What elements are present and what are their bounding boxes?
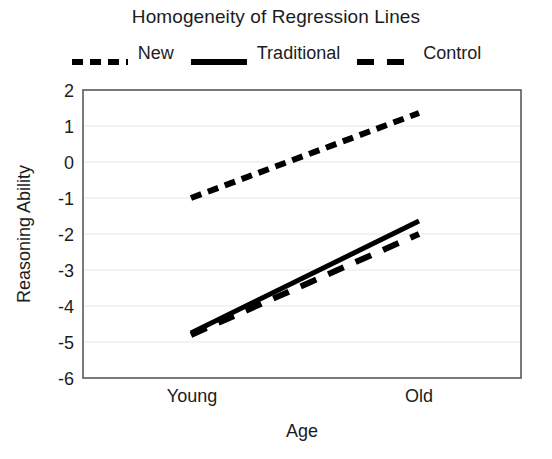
x-axis-title: Age	[286, 421, 318, 441]
y-tick-label-neg6: -6	[58, 369, 74, 389]
x-tick-label-old: Old	[405, 386, 433, 406]
y-tick-label-neg5: -5	[58, 333, 74, 353]
y-tick-label-neg2: -2	[58, 225, 74, 245]
y-tick-label-2: 2	[64, 81, 74, 101]
chart-figure: Homogeneity of Regression Lines New Trad…	[0, 0, 552, 459]
y-tick-label-neg3: -3	[58, 261, 74, 281]
y-axis-title: Reasoning Ability	[14, 165, 34, 303]
gridlines	[83, 90, 521, 342]
x-tick-label-young: Young	[167, 386, 217, 406]
plot-area: 2 1 0 -1 -2 -3 -4 -5 -6 Young Old Age Re…	[0, 0, 552, 459]
y-tick-label-1: 1	[64, 117, 74, 137]
y-tick-label-neg1: -1	[58, 189, 74, 209]
y-tick-label-neg4: -4	[58, 297, 74, 317]
y-axis-tick-labels: 2 1 0 -1 -2 -3 -4 -5 -6	[58, 81, 74, 389]
series-line-control	[191, 234, 419, 335]
series-line-traditional	[191, 221, 419, 333]
x-axis-tick-labels: Young Old	[167, 386, 433, 406]
y-tick-label-0: 0	[64, 153, 74, 173]
data-series	[191, 113, 419, 335]
